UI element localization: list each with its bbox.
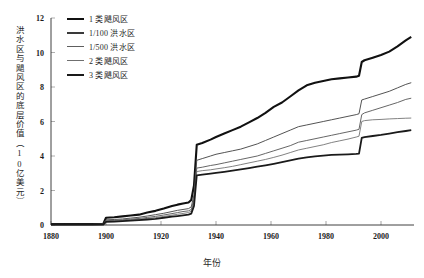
chart-plot-area: 024681012 1880190019201940196019802000 bbox=[0, 0, 424, 278]
x-tick-labels: 1880190019201940196019802000 bbox=[43, 232, 389, 241]
legend-label-3: 2 类飓风区 bbox=[89, 55, 128, 66]
legend-swatch-0 bbox=[67, 18, 84, 20]
chart-legend: 1 类飓风区1/100 洪水区1/500 洪水区2 类飓风区3 类飓风区 bbox=[67, 12, 135, 81]
x-tick-label-1980: 1980 bbox=[318, 232, 334, 241]
y-tick-label-0: 0 bbox=[40, 221, 44, 230]
y-tick-label-12: 12 bbox=[36, 14, 44, 23]
x-tick-label-1960: 1960 bbox=[263, 232, 279, 241]
legend-label-1: 1/100 洪水区 bbox=[89, 27, 135, 38]
x-tick-label-1880: 1880 bbox=[43, 232, 59, 241]
legend-item-4: 3 类飓风区 bbox=[67, 68, 135, 81]
legend-label-2: 1/500 洪水区 bbox=[89, 41, 135, 52]
y-axis-title-text: 洪水区与飓风区的底层价值（10亿美元） bbox=[15, 26, 24, 207]
y-tick-label-8: 8 bbox=[40, 83, 44, 92]
series-line-2 bbox=[51, 98, 411, 224]
legend-item-3: 2 类飓风区 bbox=[67, 54, 135, 67]
y-axis-title: 洪水区与飓风区的底层价值（10亿美元） bbox=[6, 26, 32, 206]
legend-item-2: 1/500 洪水区 bbox=[67, 40, 135, 53]
x-axis-title: 年份 bbox=[0, 252, 424, 270]
x-tick-label-1940: 1940 bbox=[208, 232, 224, 241]
legend-swatch-1 bbox=[67, 32, 84, 34]
y-tick-label-10: 10 bbox=[36, 49, 44, 58]
y-tick-label-6: 6 bbox=[40, 118, 44, 127]
series-line-4 bbox=[51, 130, 411, 225]
x-tick-label-2000: 2000 bbox=[373, 232, 389, 241]
y-tick-label-2: 2 bbox=[40, 187, 44, 196]
x-tick-label-1920: 1920 bbox=[153, 232, 169, 241]
x-axis-title-text: 年份 bbox=[203, 258, 222, 268]
legend-swatch-3 bbox=[67, 60, 84, 61]
y-tick-label-4: 4 bbox=[40, 152, 44, 161]
legend-swatch-4 bbox=[67, 74, 84, 76]
y-tick-labels: 024681012 bbox=[36, 14, 44, 230]
legend-item-0: 1 类飓风区 bbox=[67, 12, 135, 25]
y-axis-ticks bbox=[51, 18, 55, 225]
legend-swatch-2 bbox=[67, 46, 84, 47]
legend-label-0: 1 类飓风区 bbox=[89, 13, 128, 24]
chart-figure: 024681012 1880190019201940196019802000 洪… bbox=[0, 0, 424, 278]
legend-item-1: 1/100 洪水区 bbox=[67, 26, 135, 39]
x-tick-label-1900: 1900 bbox=[98, 232, 114, 241]
legend-label-4: 3 类飓风区 bbox=[89, 69, 128, 80]
